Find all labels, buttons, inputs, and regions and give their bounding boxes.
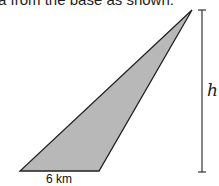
base-length-label: 6 km [46, 172, 72, 186]
triangle-shape [20, 10, 192, 171]
height-label: h [207, 80, 218, 100]
triangle-diagram [0, 0, 219, 186]
height-marker [198, 10, 206, 172]
